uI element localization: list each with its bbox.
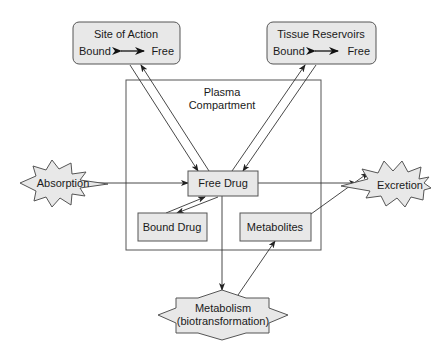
- plasma-label-1: Plasma: [204, 86, 242, 98]
- bound-drug-label: Bound Drug: [143, 221, 202, 233]
- tissue-reservoirs-free: Free: [347, 45, 370, 57]
- metabolism-label-1: Metabolism: [195, 302, 251, 314]
- excretion-label: Excretion: [377, 179, 423, 191]
- site-of-action-node: Site of Action Bound Free: [73, 22, 180, 64]
- site-of-action-bound: Bound: [79, 45, 111, 57]
- absorption-node: Absorption: [20, 160, 108, 207]
- site-of-action-free: Free: [151, 45, 174, 57]
- metabolism-node: Metabolism (biotransformation): [158, 290, 288, 340]
- pk-diagram: Plasma Compartment Site of Action Bound …: [0, 0, 447, 353]
- tissue-reservoirs-bound: Bound: [273, 45, 305, 57]
- free-drug-label: Free Drug: [198, 177, 248, 189]
- tissue-reservoirs-title: Tissue Reservoirs: [277, 28, 365, 40]
- plasma-label-2: Compartment: [189, 99, 256, 111]
- site-of-action-title: Site of Action: [94, 28, 158, 40]
- metabolites-node: Metabolites: [240, 213, 311, 241]
- bound-drug-node: Bound Drug: [138, 213, 207, 241]
- absorption-label: Absorption: [37, 177, 90, 189]
- excretion-node: Excretion: [341, 161, 431, 207]
- tissue-reservoirs-node: Tissue Reservoirs Bound Free: [267, 22, 376, 64]
- metabolites-label: Metabolites: [247, 221, 304, 233]
- free-drug-node: Free Drug: [188, 171, 258, 196]
- metabolism-label-2: (biotransformation): [177, 315, 269, 327]
